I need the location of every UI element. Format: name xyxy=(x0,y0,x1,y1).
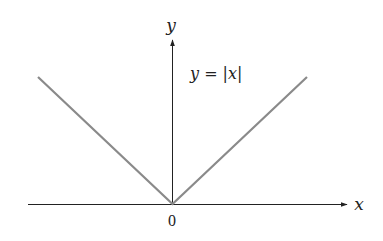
y-axis-label: y xyxy=(165,15,176,35)
origin-label: 0 xyxy=(168,212,176,229)
function-label: y = |x| xyxy=(189,64,242,83)
x-axis-label: x xyxy=(354,194,364,214)
abs-value-graph: y x 0 y = |x| xyxy=(0,0,383,241)
